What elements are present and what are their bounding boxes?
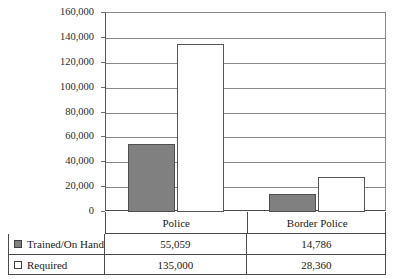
- gridline: [106, 113, 385, 114]
- y-axis-tick-label: 140,000: [0, 31, 94, 42]
- legend-table-row: Trained/On Hand55,05914,786: [9, 234, 385, 254]
- y-axis-tick-label: 0: [0, 205, 94, 216]
- y-axis-tick-label: 20,000: [0, 180, 94, 191]
- plot-area: [105, 12, 386, 211]
- legend-label-cell: Required: [9, 255, 105, 274]
- bar-border-police-required: [318, 177, 365, 212]
- y-axis-tick-label: 160,000: [0, 6, 94, 17]
- bar-chart: 160,000140,000120,000100,00080,00060,000…: [0, 0, 396, 279]
- legend-value-cell: 135,000: [105, 255, 246, 274]
- category-label-police: Police: [106, 212, 247, 233]
- legend-swatch-icon: [14, 240, 22, 248]
- gridline: [106, 137, 385, 138]
- y-axis-tick-label: 120,000: [0, 56, 94, 67]
- bar-police-trained-on-hand: [128, 144, 175, 212]
- legend-series-label: Trained/On Hand: [27, 238, 104, 250]
- legend-swatch-icon: [14, 261, 22, 269]
- category-axis-strip: PoliceBorder Police: [105, 212, 386, 234]
- gridline: [106, 88, 385, 89]
- y-axis-tick-label: 100,000: [0, 81, 94, 92]
- legend-value-cell: 14,786: [246, 234, 387, 254]
- legend-table-row: Required135,00028,360: [9, 254, 385, 274]
- gridline: [106, 63, 385, 64]
- y-axis-tick-label: 60,000: [0, 130, 94, 141]
- bar-border-police-trained-on-hand: [269, 194, 316, 212]
- y-axis-tick-label: 40,000: [0, 155, 94, 166]
- y-axis: 160,000140,000120,000100,00080,00060,000…: [0, 0, 101, 222]
- gridline: [106, 38, 385, 39]
- legend-data-table: Trained/On Hand55,05914,786Required135,0…: [8, 234, 386, 275]
- category-label-border-police: Border Police: [247, 212, 388, 233]
- y-axis-tick-label: 80,000: [0, 106, 94, 117]
- bar-police-required: [177, 44, 224, 212]
- legend-value-cell: 55,059: [105, 234, 246, 254]
- legend-value-cell: 28,360: [246, 255, 387, 274]
- legend-series-label: Required: [27, 259, 67, 271]
- legend-label-cell: Trained/On Hand: [9, 234, 105, 254]
